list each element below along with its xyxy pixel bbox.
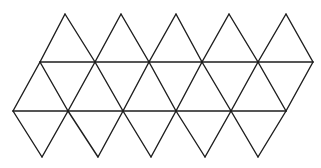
- middle-strip-edge: [258, 62, 286, 111]
- bottom-triangle-edge: [13, 111, 42, 157]
- triangle-net-drawing: [0, 0, 321, 168]
- middle-strip-edge: [149, 62, 176, 111]
- middle-strip-edge: [13, 62, 40, 111]
- bottom-triangle-edge: [258, 111, 286, 157]
- top-triangle-edge: [229, 14, 258, 62]
- top-triangle-edge: [258, 14, 286, 62]
- top-triangle-edge: [65, 14, 95, 62]
- top-triangle-edge: [176, 14, 202, 62]
- top-triangle-edge: [95, 14, 121, 62]
- middle-strip-edge: [68, 62, 95, 111]
- middle-strip-edge: [286, 62, 313, 111]
- bottom-triangle-edge: [123, 111, 151, 157]
- icosahedron-net-diagram: [0, 0, 321, 168]
- bottom-triangle-edge: [98, 111, 123, 157]
- bottom-triangle-edge: [68, 111, 98, 157]
- middle-strip-edge: [40, 62, 68, 111]
- bottom-triangle-edge: [231, 111, 258, 157]
- top-triangle-edge: [149, 14, 176, 62]
- bottom-triangle-edge: [151, 111, 176, 157]
- top-triangle-edge: [121, 14, 149, 62]
- middle-strip-edge: [95, 62, 123, 111]
- bottom-triangle-edge: [42, 111, 68, 157]
- middle-strip-edge: [231, 62, 258, 111]
- bottom-triangle-edge: [176, 111, 205, 157]
- middle-strip-edge: [202, 62, 231, 111]
- top-triangle-edge: [202, 14, 229, 62]
- middle-strip-edge: [123, 62, 149, 111]
- middle-strip-edge: [176, 62, 202, 111]
- top-triangle-edge: [286, 14, 313, 62]
- top-triangle-edge: [40, 14, 65, 62]
- bottom-triangle-edge: [205, 111, 231, 157]
